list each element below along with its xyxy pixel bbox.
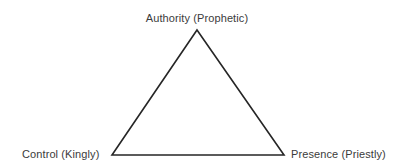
triangle-diagram: Authority (Prophetic) Control (Kingly) P… <box>0 0 402 168</box>
triangle-shape <box>0 0 402 168</box>
label-authority-prophetic: Authority (Prophetic) <box>0 12 394 25</box>
label-control-kingly: Control (Kingly) <box>22 148 99 161</box>
triangle-outline <box>112 30 284 155</box>
label-presence-priestly: Presence (Priestly) <box>291 148 386 161</box>
